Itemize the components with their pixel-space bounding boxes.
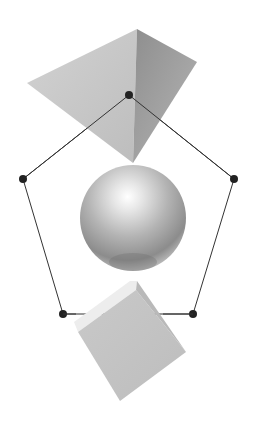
sphere-shape [80,165,186,271]
pyramid-left-face [27,29,137,163]
geometry-diagram [0,0,259,428]
edge-bottomleft-left [23,179,63,314]
node-left [19,175,27,183]
cube-front-face [78,290,186,401]
diagram-canvas [0,0,259,428]
node-right [230,175,238,183]
pyramid-right-face [133,29,197,163]
node-top [125,91,133,99]
edge-right-bottomright [193,179,234,314]
cube-shape [74,281,186,401]
pyramid-shape [27,29,197,163]
sphere-shadow [109,253,157,271]
